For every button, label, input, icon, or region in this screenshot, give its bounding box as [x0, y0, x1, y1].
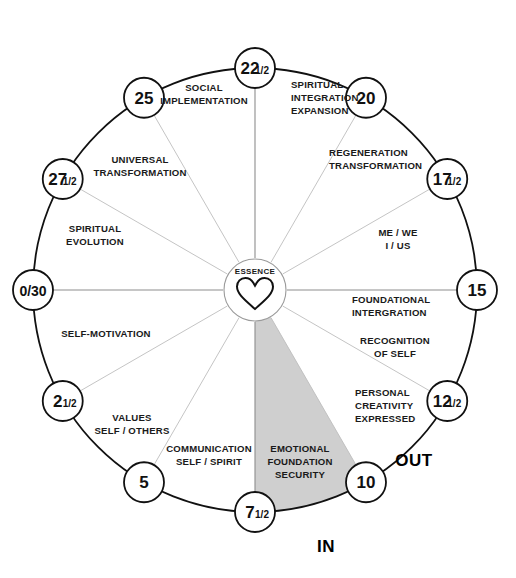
sector-label-line: EMOTIONAL — [270, 443, 329, 454]
sector-label-line: RECOGNITION — [360, 335, 430, 346]
sector-label-s-communication-self-spirit: COMMUNICATIONSELF / SPIRIT — [166, 443, 252, 467]
sector-label-line: I / US — [385, 240, 411, 251]
sector-label-s-me-we-i-us: ME / WEI / US — [378, 227, 418, 251]
node-fraction: 1/2 — [447, 398, 461, 409]
essence-wheel-diagram: ESSENCE 0/3021/2571/210121/215171/220221… — [0, 0, 516, 578]
sector-label-s-values-self-others: VALUESSELF / OTHERS — [94, 412, 169, 436]
sector-label-line: SPIRITUAL — [291, 79, 343, 90]
sector-label-line: INTERGRATION — [352, 307, 427, 318]
sector-label-s-spiritual-evolution: SPIRITUALEVOLUTION — [66, 223, 124, 247]
in-label: IN — [317, 537, 335, 556]
wheel-canvas: ESSENCE 0/3021/2571/210121/215171/220221… — [0, 0, 516, 578]
spoke-n20 — [271, 114, 357, 262]
sector-label-line: EXPRESSED — [355, 413, 415, 424]
node-fraction: 1/2 — [63, 398, 77, 409]
sector-label-line: SELF / SPIRIT — [176, 456, 242, 467]
node-fraction: 1/2 — [255, 65, 269, 76]
sector-label-line: VALUES — [112, 412, 152, 423]
sector-label-s-emotional-foundation-security: EMOTIONALFOUNDATIONSECURITY — [267, 443, 332, 480]
node-number: 20 — [357, 89, 376, 108]
sector-label-s-foundational-intergration: FOUNDATIONALINTERGRATION — [352, 294, 430, 318]
sector-label-s-personal-creativity-expressed: PERSONALCREATIVITYEXPRESSED — [355, 387, 415, 424]
sector-label-line: OF SELF — [374, 348, 416, 359]
spoke-n2_5 — [79, 306, 227, 392]
wheel-node-27-half[interactable]: 271/2 — [43, 159, 83, 199]
node-fraction: 1/2 — [63, 176, 77, 187]
sector-label-line: REGENERATION — [329, 147, 408, 158]
sector-label-line: TRANSFORMATION — [93, 167, 186, 178]
sector-label-line: EVOLUTION — [66, 236, 124, 247]
sector-label-line: FOUNDATION — [267, 456, 332, 467]
sector-label-line: IMPLEMENTATION — [160, 95, 248, 106]
wheel-node-0-30[interactable]: 0/30 — [13, 270, 53, 310]
sector-label-line: SOCIAL — [185, 82, 222, 93]
sector-label-line: SELF / OTHERS — [94, 425, 169, 436]
node-number: 5 — [139, 473, 148, 492]
sector-label-line: INTEGRATION — [291, 92, 359, 103]
wheel-node-22-half[interactable]: 221/2 — [235, 48, 275, 88]
node-number: 2 — [53, 392, 62, 411]
spoke-n25 — [154, 114, 240, 262]
wheel-node-5[interactable]: 5 — [124, 462, 164, 502]
sector-label-line: COMMUNICATION — [166, 443, 252, 454]
node-number: 10 — [357, 473, 376, 492]
sector-label-s-spiritual-integration-expansion: SPIRITUALINTEGRATIONEXPANSION — [291, 79, 359, 116]
sector-label-line: PERSONAL — [355, 387, 410, 398]
sector-label-line: SECURITY — [275, 469, 326, 480]
sector-label-line: SELF-MOTIVATION — [61, 328, 151, 339]
node-number: 7 — [245, 503, 254, 522]
node-number: 25 — [135, 89, 154, 108]
wheel-node-7-half[interactable]: 71/2 — [235, 492, 275, 532]
sector-label-s-social-implementation: SOCIALIMPLEMENTATION — [160, 82, 248, 106]
sector-label-line: CREATIVITY — [355, 400, 414, 411]
wheel-node-10[interactable]: 10 — [346, 462, 386, 502]
sector-label-s-universal-transformation: UNIVERSALTRANSFORMATION — [93, 154, 186, 178]
sector-label-line: ME / WE — [378, 227, 418, 238]
sector-label-s-recognition-of-self: RECOGNITIONOF SELF — [360, 335, 430, 359]
node-fraction: 1/2 — [447, 176, 461, 187]
essence-label: ESSENCE — [235, 267, 276, 276]
sector-label-s-regeneration-transformation: REGENERATIONTRANSFORMATION — [329, 147, 422, 171]
sector-label-line: SPIRITUAL — [69, 223, 121, 234]
wheel-node-15[interactable]: 15 — [457, 270, 497, 310]
node-number: 0/30 — [19, 283, 46, 299]
sector-label-line: UNIVERSAL — [111, 154, 168, 165]
sector-label-s-self-motivation: SELF-MOTIVATION — [61, 328, 151, 339]
wheel-node-12-half[interactable]: 121/2 — [427, 381, 467, 421]
sector-label-line: EXPANSION — [291, 105, 349, 116]
sector-label-line: FOUNDATIONAL — [352, 294, 430, 305]
node-number: 15 — [468, 281, 487, 300]
out-label: OUT — [395, 451, 433, 470]
wheel-node-2-half[interactable]: 21/2 — [43, 381, 83, 421]
node-fraction: 1/2 — [255, 509, 269, 520]
wheel-node-25[interactable]: 25 — [124, 78, 164, 118]
sector-label-line: TRANSFORMATION — [329, 160, 422, 171]
wheel-node-17-half[interactable]: 171/2 — [427, 159, 467, 199]
